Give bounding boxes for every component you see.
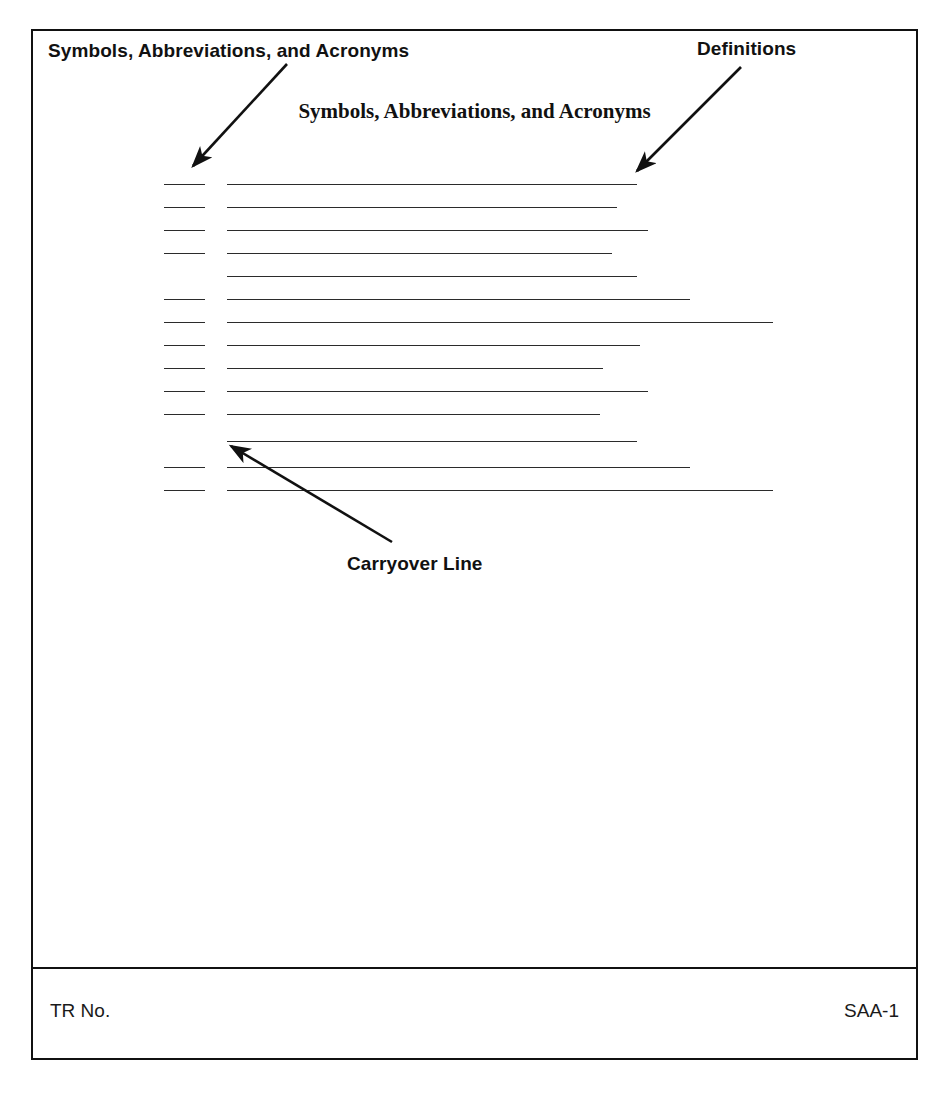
footer-page-id: SAA-1 [844,1000,899,1022]
footer-tr-number-label: TR No. [50,1000,110,1022]
annotation-arrows [0,0,949,1096]
arrow-symbols-icon [193,64,287,166]
footer-divider [31,967,918,969]
arrow-carryover-icon [231,446,392,542]
document-page: Symbols, Abbreviations, and Acronyms Def… [0,0,949,1096]
arrow-definitions-icon [637,67,741,171]
